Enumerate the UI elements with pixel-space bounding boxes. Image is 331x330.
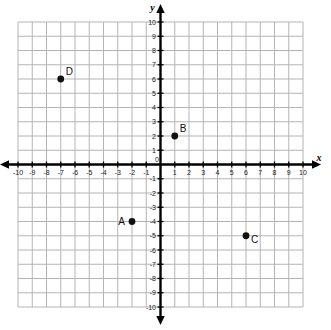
point-label-a: A [118, 216, 125, 227]
coordinate-plane-svg: -10-9-8-7-6-5-4-3-2-1012345678910-10-9-8… [0, 0, 331, 330]
x-tick-label--1: -1 [143, 169, 149, 176]
x-axis-label: x [316, 152, 322, 163]
y-tick-label-3: 3 [152, 118, 156, 125]
y-axis-label: y [149, 2, 155, 13]
point-marker-a [129, 218, 136, 225]
y-tick-label-10: 10 [148, 19, 156, 26]
x-tick-label--4: -4 [100, 169, 106, 176]
data-point-c: C [243, 232, 259, 245]
point-label-b: B [180, 123, 187, 134]
x-tick-label-9: 9 [287, 169, 291, 176]
x-tick-label-8: 8 [273, 169, 277, 176]
x-tick-label--10: -10 [13, 169, 23, 176]
y-tick-label--6: -6 [150, 247, 156, 254]
y-tick-label-2: 2 [152, 133, 156, 140]
y-tick-label--5: -5 [150, 232, 156, 239]
x-tick-label--7: -7 [58, 169, 64, 176]
x-tick-label-1: 1 [173, 169, 177, 176]
point-marker-d [57, 76, 64, 83]
point-label-c: C [251, 234, 258, 245]
x-tick-label--3: -3 [115, 169, 121, 176]
x-tick-label-10: 10 [299, 169, 307, 176]
x-tick-label--5: -5 [86, 169, 92, 176]
y-tick-label-9: 9 [152, 33, 156, 40]
axis-lines [0, 4, 321, 325]
x-tick-label-3: 3 [201, 169, 205, 176]
y-tick-label--1: -1 [150, 175, 156, 182]
x-tick-label-2: 2 [187, 169, 191, 176]
coordinate-plane: -10-9-8-7-6-5-4-3-2-1012345678910-10-9-8… [0, 0, 331, 330]
x-tick-label--9: -9 [29, 169, 35, 176]
y-tick-label-1: 1 [152, 147, 156, 154]
point-label-d: D [66, 66, 73, 77]
y-tick-label--10: -10 [146, 304, 156, 311]
y-tick-label-7: 7 [152, 61, 156, 68]
x-tick-label-6: 6 [244, 169, 248, 176]
y-tick-label-8: 8 [152, 47, 156, 54]
point-marker-b [171, 133, 178, 140]
x-tick-label-5: 5 [230, 169, 234, 176]
x-tick-label--2: -2 [129, 169, 135, 176]
point-marker-c [243, 232, 250, 239]
y-tick-label--8: -8 [150, 275, 156, 282]
data-point-b: B [171, 123, 186, 140]
y-tick-label--2: -2 [150, 190, 156, 197]
x-tick-label-7: 7 [258, 169, 262, 176]
x-tick-label-0: 0 [155, 156, 159, 163]
y-tick-label-6: 6 [152, 76, 156, 83]
y-tick-label-4: 4 [152, 104, 156, 111]
x-tick-label-4: 4 [216, 169, 220, 176]
y-tick-label-5: 5 [152, 90, 156, 97]
y-tick-label--7: -7 [150, 261, 156, 268]
y-tick-label--9: -9 [150, 289, 156, 296]
data-point-d: D [57, 66, 73, 83]
x-tick-label--8: -8 [43, 169, 49, 176]
y-tick-label--4: -4 [150, 218, 156, 225]
y-tick-label--3: -3 [150, 204, 156, 211]
x-tick-label--6: -6 [72, 169, 78, 176]
